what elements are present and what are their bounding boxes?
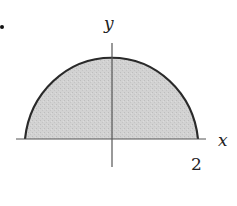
x-axis-label: x [218,130,228,150]
semicircle-diagram: y x 2 [0,0,237,206]
tick-label-2: 2 [191,154,202,174]
y-axis-label: y [103,13,114,33]
bullet-marker [0,25,4,29]
